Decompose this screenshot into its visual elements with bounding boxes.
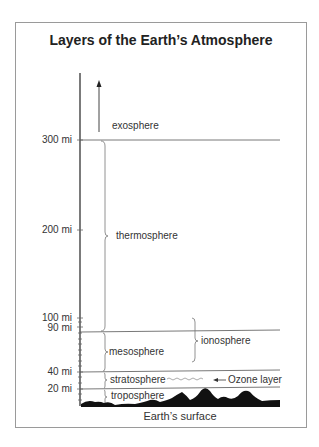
tick-label-90: 90 mi xyxy=(12,322,72,333)
tick-label-200: 200 mi xyxy=(12,224,72,235)
label-troposphere: troposphere xyxy=(111,390,164,401)
mesosphere-brace xyxy=(103,333,108,371)
label-earths-surface: Earth’s surface xyxy=(80,410,280,422)
stratosphere-brace xyxy=(104,373,107,388)
thermosphere-brace xyxy=(101,141,108,331)
arrow-head-icon xyxy=(97,80,102,87)
label-ozone-layer: Ozone layer xyxy=(228,374,282,385)
ionosphere-brace xyxy=(192,318,198,362)
tick-label-20: 20 mi xyxy=(12,383,72,394)
tick-label-300: 300 mi xyxy=(12,134,72,145)
label-exosphere: exosphere xyxy=(112,120,159,131)
label-thermosphere: thermosphere xyxy=(116,230,178,241)
boundary-20mi xyxy=(80,387,280,389)
ozone-wave-icon xyxy=(167,378,203,380)
label-mesosphere: mesosphere xyxy=(109,346,164,357)
boundary-40mi xyxy=(80,370,280,372)
tick-label-40: 40 mi xyxy=(12,366,72,377)
label-ionosphere: ionosphere xyxy=(201,335,250,346)
boundary-90mi xyxy=(80,330,280,332)
label-stratosphere: stratosphere xyxy=(110,374,166,385)
